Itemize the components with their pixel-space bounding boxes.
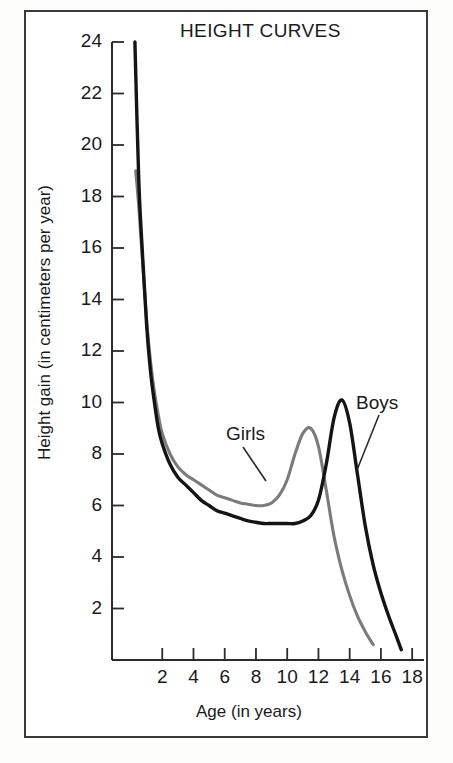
series-label-girls: Girls xyxy=(226,423,265,445)
x-axis-label: Age (in years) xyxy=(196,702,302,722)
x-tick-label: 12 xyxy=(303,666,333,688)
y-tick-label: 14 xyxy=(62,288,102,310)
y-axis-label: Height gain (in centimeters per year) xyxy=(35,220,55,460)
x-tick-marks xyxy=(162,648,412,660)
y-tick-label: 4 xyxy=(62,545,102,567)
y-tick-label: 20 xyxy=(62,133,102,155)
leader-line-boys xyxy=(357,415,379,470)
x-tick-label: 2 xyxy=(147,666,177,688)
curve-boys xyxy=(135,42,401,650)
x-tick-label: 16 xyxy=(366,666,396,688)
y-tick-label: 24 xyxy=(62,30,102,52)
page-title: HEIGHT CURVES xyxy=(180,20,341,42)
axis-lines xyxy=(112,42,424,660)
y-tick-label: 6 xyxy=(62,494,102,516)
x-tick-label: 18 xyxy=(397,666,427,688)
x-tick-label: 10 xyxy=(272,666,302,688)
x-tick-label: 14 xyxy=(335,666,365,688)
x-tick-label: 6 xyxy=(210,666,240,688)
x-tick-label: 8 xyxy=(241,666,271,688)
y-tick-label: 18 xyxy=(62,185,102,207)
chart-plot-area xyxy=(0,0,453,763)
y-tick-marks xyxy=(112,42,124,609)
y-tick-label: 2 xyxy=(62,597,102,619)
y-tick-label: 12 xyxy=(62,339,102,361)
y-tick-label: 8 xyxy=(62,442,102,464)
series-label-boys: Boys xyxy=(356,392,398,414)
leader-line-girls xyxy=(243,447,266,481)
y-tick-label: 10 xyxy=(62,391,102,413)
x-tick-label: 4 xyxy=(178,666,208,688)
y-tick-label: 22 xyxy=(62,82,102,104)
height-curves-figure: HEIGHT CURVES Height gain (in centimeter… xyxy=(0,0,453,763)
y-tick-label: 16 xyxy=(62,236,102,258)
